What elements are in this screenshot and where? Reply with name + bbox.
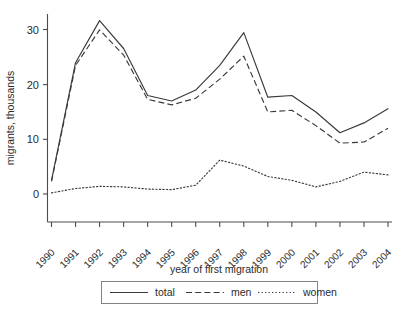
y-tick-label-10: 10 bbox=[27, 133, 39, 145]
legend-label-total: total bbox=[155, 286, 175, 298]
y-tick-label-20: 20 bbox=[27, 79, 39, 91]
chart-figure: 30 20 10 0 migrants, thousands 199019911… bbox=[0, 0, 412, 314]
y-tick-label-0: 0 bbox=[33, 188, 39, 200]
y-axis-title: migrants, thousands bbox=[4, 71, 16, 166]
y-tick-label-30: 30 bbox=[27, 24, 39, 36]
chart-canvas: 30 20 10 0 migrants, thousands 199019911… bbox=[0, 0, 412, 314]
x-axis-title: year of first migration bbox=[170, 263, 268, 275]
legend-label-men: men bbox=[231, 286, 252, 298]
legend-label-women: women bbox=[302, 286, 337, 298]
